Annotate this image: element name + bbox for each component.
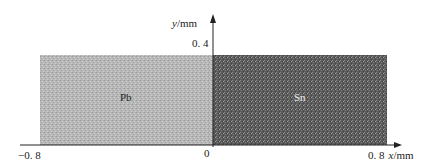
x-min-label: −0. 8 — [18, 149, 41, 161]
sn-label: Sn — [294, 91, 306, 103]
y-max-label: 0. 4 — [192, 37, 209, 49]
x-axis-label: 0. 8x/mm — [368, 149, 414, 161]
diffusion-couple-diagram: Pb Sn −0. 8 0 0. 8x/mm 0. 4 y/mm — [0, 0, 438, 168]
x-axis-arrow-icon — [394, 142, 402, 148]
y-axis-arrow-icon — [210, 14, 216, 23]
y-axis-label: y/mm — [171, 17, 198, 29]
pb-label: Pb — [120, 91, 132, 103]
origin-label: 0 — [204, 147, 210, 159]
